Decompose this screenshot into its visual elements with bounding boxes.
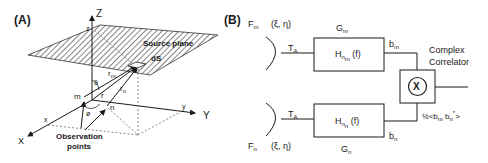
panel-b-label: (B) xyxy=(224,14,241,26)
axis-label-y: y xyxy=(182,103,186,110)
multiplier-icon: X xyxy=(413,82,420,92)
rn-label: rn xyxy=(120,85,126,94)
F-n-label: Fn xyxy=(248,142,257,152)
y-axis xyxy=(92,100,195,113)
G-n-label: Gn xyxy=(341,145,351,155)
axis-label-X: X xyxy=(18,137,24,146)
H-m-label: Hnm (f) xyxy=(335,50,361,62)
b-m-label: bm xyxy=(389,40,399,50)
theta-label: θ xyxy=(94,79,98,86)
source-plane xyxy=(28,25,218,75)
point-m-label: m xyxy=(74,93,81,101)
T-top-label: TA xyxy=(288,44,298,54)
H-n-label: Hnn (f) xyxy=(335,117,359,129)
correlator-label-2: Correlator xyxy=(429,58,469,67)
source-plane-label: Source plane xyxy=(143,40,193,48)
axis-label-Y: Y xyxy=(203,111,210,121)
observation-label-2: points xyxy=(67,143,91,151)
b-n-label: bn xyxy=(389,132,397,142)
coords-bottom: (ξ, η) xyxy=(271,142,291,151)
rm-label: rm xyxy=(108,70,116,79)
r-label: r xyxy=(101,92,104,100)
phi-label: ø xyxy=(86,110,90,117)
observation-label-1: Observation xyxy=(56,133,103,141)
correlator-label-1: Complex xyxy=(429,46,465,55)
point-n-label: n xyxy=(110,104,114,112)
panel-a-label: (A) xyxy=(14,14,31,26)
antenna-m-dish xyxy=(266,37,276,70)
axis-label-z: z xyxy=(86,25,90,32)
axis-label-Z: Z xyxy=(96,9,102,19)
ds-label: dS xyxy=(151,55,161,63)
axis-label-x: x xyxy=(44,116,48,123)
coords-top: (ξ, η) xyxy=(271,20,291,29)
T-bottom-label: TA xyxy=(288,110,298,120)
correlator-output-label: ½<bm bn*> xyxy=(422,110,460,122)
F-m-label: Fm xyxy=(248,20,259,30)
G-m-label: Gm xyxy=(336,24,348,34)
antenna-n-dish xyxy=(266,103,276,136)
